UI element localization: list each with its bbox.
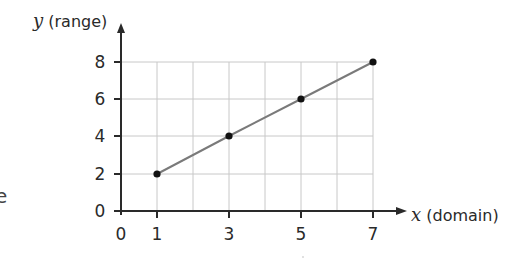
- speck: [302, 256, 304, 258]
- x-tick-label: 0: [116, 224, 127, 244]
- y-axis-title: y (range): [32, 10, 107, 31]
- x-tick-label: 7: [368, 224, 379, 244]
- x-axis-variable: x: [411, 204, 421, 225]
- data-point: [369, 58, 376, 65]
- data-point: [225, 132, 232, 139]
- x-axis-word: (domain): [421, 206, 499, 225]
- y-axis-arrow-icon: [117, 23, 125, 33]
- x-tick-label: 5: [296, 224, 307, 244]
- x-axis-title: x (domain): [411, 204, 499, 225]
- y-axis-word: (range): [43, 12, 107, 31]
- y-tick-labels: 8 6 4 2 0: [95, 52, 106, 221]
- x-axis-arrow-icon: [396, 207, 407, 215]
- cropped-text-fragment: e: [0, 184, 7, 208]
- x-tick-label: 1: [152, 224, 163, 244]
- grid: [121, 62, 373, 211]
- x-axis: [121, 207, 407, 218]
- y-tick-label: 6: [95, 89, 106, 109]
- y-tick-label: 2: [95, 164, 106, 184]
- chart: 8 6 4 2 0 0 1 3 5 7 y (range) x (domain)…: [0, 0, 522, 267]
- y-tick-label: 8: [95, 52, 106, 72]
- x-tick-labels: 0 1 3 5 7: [116, 224, 379, 244]
- x-tick-label: 3: [224, 224, 235, 244]
- data-point: [297, 95, 304, 102]
- y-tick-label: 4: [95, 126, 106, 146]
- data-point: [153, 170, 160, 177]
- y-tick-label: 0: [95, 201, 106, 221]
- y-axis: [114, 23, 125, 215]
